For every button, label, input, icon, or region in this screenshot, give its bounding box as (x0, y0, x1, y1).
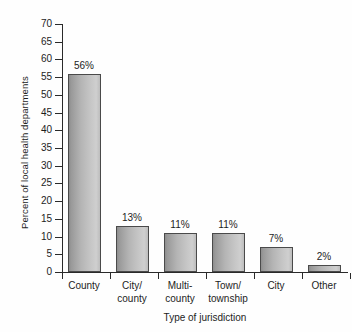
bar-value-label: 11% (218, 219, 237, 231)
x-axis-title: Type of jurisdiction (62, 312, 348, 323)
x-tick-label: County (68, 280, 100, 293)
y-tick-label: 5 (46, 247, 52, 260)
x-tick (206, 273, 207, 279)
bar-value-label: 7% (269, 233, 283, 245)
y-tick: 40 (55, 130, 62, 131)
bar-value-label: 56% (74, 60, 94, 72)
y-tick: 20 (55, 201, 62, 202)
y-tick: 10 (55, 237, 62, 238)
bar-chart: Percent of local health departments 0510… (0, 0, 352, 332)
x-tick (110, 273, 111, 279)
y-tick-label: 15 (41, 212, 52, 225)
plot-area: 051015202530354045505560657056%County13%… (62, 24, 348, 273)
x-tick (254, 273, 255, 279)
y-tick: 50 (55, 95, 62, 96)
y-tick: 30 (55, 166, 62, 167)
y-axis-line (62, 24, 63, 273)
y-tick: 45 (55, 113, 62, 114)
y-tick-label: 50 (41, 88, 52, 101)
y-axis-title: Percent of local health departments (19, 38, 30, 268)
y-tick: 65 (55, 42, 62, 43)
x-tick (158, 273, 159, 279)
y-tick: 70 (55, 24, 62, 25)
y-tick-label: 45 (41, 106, 52, 119)
y-tick: 55 (55, 77, 62, 78)
x-tick (350, 273, 351, 279)
x-tick-label: Town/ township (208, 280, 247, 305)
bar: 11% (212, 233, 245, 272)
y-tick-label: 20 (41, 194, 52, 207)
bar-value-label: 13% (122, 212, 142, 224)
y-tick-label: 40 (41, 123, 52, 136)
y-tick-label: 30 (41, 159, 52, 172)
x-axis-line (62, 272, 348, 273)
y-tick-label: 65 (41, 35, 52, 48)
y-tick-label: 10 (41, 230, 52, 243)
bar-value-label: 2% (317, 251, 331, 263)
y-tick: 0 (55, 272, 62, 273)
bar: 13% (116, 226, 149, 272)
y-tick-label: 35 (41, 141, 52, 154)
y-tick: 25 (55, 183, 62, 184)
x-tick-label: City (267, 280, 284, 293)
bar-value-label: 11% (170, 219, 189, 231)
x-tick-label: Other (311, 280, 336, 293)
y-tick-label: 0 (46, 265, 52, 278)
y-tick: 5 (55, 254, 62, 255)
x-tick-label: City/ county (117, 280, 146, 305)
y-tick-label: 60 (41, 52, 52, 65)
bar: 7% (260, 247, 293, 272)
y-tick-label: 70 (41, 17, 52, 30)
y-tick-label: 55 (41, 70, 52, 83)
bar: 11% (164, 233, 197, 272)
y-tick: 15 (55, 219, 62, 220)
x-tick (62, 273, 63, 279)
x-tick (302, 273, 303, 279)
y-tick: 60 (55, 59, 62, 60)
x-tick-label: Multi- county (165, 280, 194, 305)
y-tick-label: 25 (41, 176, 52, 189)
y-tick: 35 (55, 148, 62, 149)
bar: 56% (68, 74, 101, 272)
bar: 2% (308, 265, 341, 272)
